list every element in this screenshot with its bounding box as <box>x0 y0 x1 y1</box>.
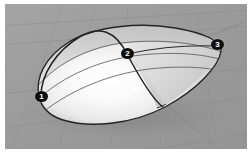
viewport-frame: 1 2 3 <box>0 0 252 153</box>
annotation-marker-3[interactable]: 3 <box>211 39 224 50</box>
annotation-marker-1[interactable]: 1 <box>35 91 48 102</box>
annotation-marker-1-label: 1 <box>39 92 43 101</box>
annotation-marker-3-label: 3 <box>215 40 219 49</box>
annotation-marker-2[interactable]: 2 <box>121 48 134 59</box>
3d-viewport-canvas[interactable]: 1 2 3 <box>5 4 247 149</box>
scene-render <box>5 4 247 149</box>
annotation-marker-2-label: 2 <box>125 49 129 58</box>
